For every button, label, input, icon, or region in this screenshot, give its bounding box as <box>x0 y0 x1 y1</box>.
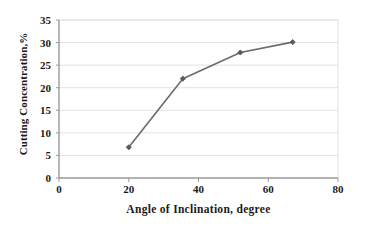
chart-container: Cutting Concentration,% Angle of Inclina… <box>0 0 365 227</box>
y-tick-label: 15 <box>40 104 52 116</box>
y-tick-label: 20 <box>40 82 52 94</box>
plot-area: 05101520253035 020406080 <box>0 0 365 227</box>
gridlines <box>59 20 338 178</box>
y-tick-label: 0 <box>46 172 52 184</box>
x-tick-label: 60 <box>263 183 275 195</box>
data-point-marker <box>290 40 295 45</box>
x-tick-label: 0 <box>56 183 62 195</box>
y-tick-label: 10 <box>40 127 52 139</box>
axis-lines <box>59 20 338 178</box>
data-point-marker <box>238 50 243 55</box>
y-tick-label: 5 <box>46 149 52 161</box>
y-tick-label: 30 <box>40 37 52 49</box>
x-tick-label: 20 <box>123 183 135 195</box>
x-axis-tick-labels: 020406080 <box>56 178 344 195</box>
y-axis-tick-labels: 05101520253035 <box>40 14 59 184</box>
y-tick-label: 25 <box>40 59 52 71</box>
x-tick-label: 80 <box>333 183 345 195</box>
series-line <box>129 42 293 147</box>
y-tick-label: 35 <box>40 14 52 26</box>
x-tick-label: 40 <box>193 183 205 195</box>
